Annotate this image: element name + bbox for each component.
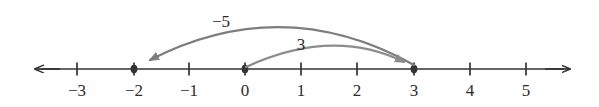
tick-label: 2 — [337, 82, 377, 99]
tick-label: 0 — [225, 82, 265, 99]
minus-five-arc-label: −5 — [201, 13, 241, 30]
point-marker — [131, 65, 138, 73]
tick-label: −2 — [114, 82, 154, 99]
number-line-figure: −3−2−1012345 −5 3 — [0, 0, 599, 107]
tick-label: −1 — [169, 82, 209, 99]
plus-three-arc-label: 3 — [281, 36, 321, 53]
tick-label: 1 — [281, 82, 321, 99]
tick-label: 5 — [506, 82, 546, 99]
tick-label: 3 — [394, 82, 434, 99]
tick-label: 4 — [450, 82, 490, 99]
tick-label: −3 — [57, 82, 97, 99]
